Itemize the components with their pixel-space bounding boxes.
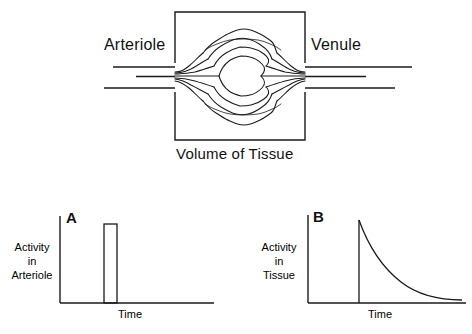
panel-a-letter: A — [66, 210, 77, 227]
arteriole-label: Arteriole — [104, 36, 165, 54]
panel-b-ylabel-line-3: Tissue — [255, 269, 303, 283]
panel-a-ylabel-line-1: Activity — [8, 241, 56, 255]
panel-b-ylabel-line-1: Activity — [255, 241, 303, 255]
panel-b-letter: B — [313, 209, 324, 226]
panel-b-x-axis-label: Time — [360, 308, 400, 320]
panel-b-ylabel-line-2: in — [255, 255, 303, 269]
panel-a-ylabel-line-2: in — [8, 255, 56, 269]
figure-background — [0, 0, 472, 334]
volume-of-tissue-label: Volume of Tissue — [176, 146, 293, 163]
panel-a-y-axis-label: Activity in Arteriole — [8, 241, 56, 282]
panel-a-x-axis-label: Time — [110, 308, 150, 320]
panel-a-ylabel-line-3: Arteriole — [8, 269, 56, 283]
figure-canvas — [0, 0, 472, 334]
panel-b-y-axis-label: Activity in Tissue — [255, 241, 303, 282]
venule-label: Venule — [311, 36, 361, 54]
